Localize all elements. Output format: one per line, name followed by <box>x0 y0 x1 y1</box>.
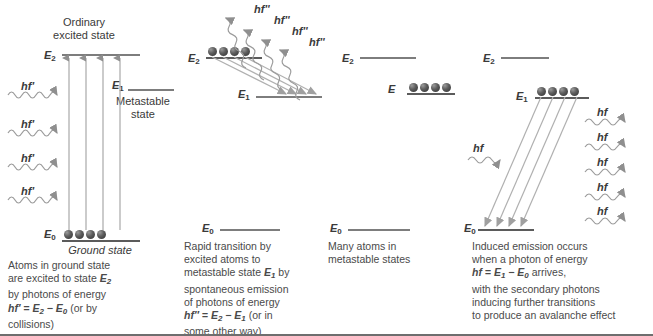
caption-line: Atoms in ground state <box>8 259 170 272</box>
caption-line: spontaneous emission <box>184 283 334 296</box>
atom <box>420 83 429 92</box>
caption-line: metastable states <box>328 253 474 266</box>
energy-level-e2 <box>360 57 416 59</box>
caption-line: of photons of energy <box>184 296 334 309</box>
caption-line: hf″ = E2 − E1 (or in <box>184 309 334 325</box>
panel2-caption: Rapid transition by excited atoms to met… <box>184 240 334 336</box>
panel3-caption: Many atoms in metastable states <box>328 240 474 266</box>
caption-line: hf = E1 − E0 arrives, <box>472 266 653 282</box>
caption-line: when a photon of energy <box>472 253 653 266</box>
panel-spontaneous-emission: E2 E1 E0 <box>176 0 328 336</box>
panel1-caption: Atoms in ground state are excited to sta… <box>8 259 170 331</box>
panel-induced-emission: E2 E1 E0 <box>478 0 653 336</box>
level-label-e0: E0 <box>464 222 476 238</box>
energy-level-metastable <box>407 93 455 95</box>
caption-line: inducing further transitions <box>472 296 653 309</box>
panel4-caption: Induced emission occurs when a photon of… <box>472 240 653 322</box>
caption-line: Induced emission occurs <box>472 240 653 253</box>
caption-line: collisions) <box>8 318 170 331</box>
atom <box>431 83 440 92</box>
caption-line: hf′ = E2 − E0 (or by <box>8 302 170 318</box>
panel-population-inversion: E2 E E0 Many atoms in metastable states <box>328 0 478 336</box>
level-label-e-metastable: E <box>388 83 395 99</box>
atom <box>409 83 418 92</box>
panel-excitation: Ordinary excited state E2 E1 Metastable … <box>0 0 176 336</box>
level-label-e0: E0 <box>330 222 342 238</box>
caption-line: to produce an avalanche effect <box>472 309 653 322</box>
energy-level-e0 <box>348 229 410 231</box>
atom-row-metastable <box>409 83 451 92</box>
figure-root: Ordinary excited state E2 E1 Metastable … <box>0 0 653 336</box>
caption-line: metastable state E1 by <box>184 266 334 282</box>
caption-line: by photons of energy <box>8 288 170 301</box>
caption-line: with the secondary photons <box>472 283 653 296</box>
caption-line: Many atoms in <box>328 240 474 253</box>
atom <box>442 83 451 92</box>
caption-line: excited atoms to <box>184 253 334 266</box>
level-label-e2: E2 <box>342 52 354 68</box>
caption-line: are excited to state E2 <box>8 272 170 288</box>
caption-line: some other way) <box>184 325 334 336</box>
caption-line: Rapid transition by <box>184 240 334 253</box>
